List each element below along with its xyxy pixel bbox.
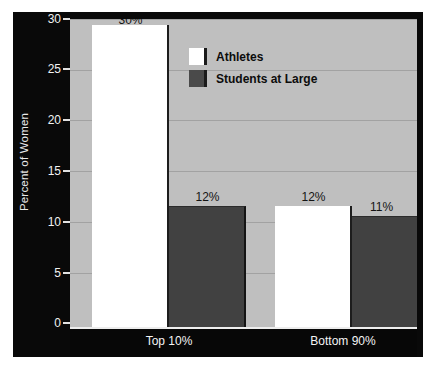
- y-axis-title-text: Percent of Women: [18, 113, 30, 211]
- legend-label-students-at-large: Students at Large: [216, 72, 317, 86]
- legend: Athletes Students at Large: [189, 47, 317, 91]
- y-tick-mark: [63, 322, 70, 324]
- bar-label-students-bottom90: 11%: [348, 200, 415, 214]
- legend-item-athletes[interactable]: Athletes: [189, 47, 317, 66]
- y-tick-mark: [63, 272, 70, 274]
- bar-label-athletes-top10: 30%: [92, 19, 169, 27]
- chart-figure: Percent of Women 30 25 20 15 10 5 0 30% …: [13, 12, 423, 357]
- y-tick-label: 30: [48, 12, 61, 26]
- legend-swatch-students-at-large: [189, 70, 207, 87]
- bar-athletes-bottom90[interactable]: [275, 206, 352, 327]
- x-axis-labels: Top 10% Bottom 90%: [70, 329, 417, 357]
- x-tick-label-top10: Top 10%: [92, 334, 246, 348]
- bar-students-top10[interactable]: [169, 206, 246, 327]
- bar-athletes-top10[interactable]: [92, 25, 169, 327]
- y-tick-mark: [63, 170, 70, 172]
- legend-swatch-athletes: [189, 48, 207, 65]
- y-tick-label: 25: [48, 62, 61, 76]
- y-tick-mark: [63, 18, 70, 20]
- bar-label-athletes-bottom90: 12%: [275, 190, 352, 204]
- x-tick-label-bottom90: Bottom 90%: [266, 334, 420, 348]
- legend-item-students-at-large[interactable]: Students at Large: [189, 69, 317, 88]
- y-tick-label: 15: [48, 164, 61, 178]
- y-tick-mark: [63, 68, 70, 70]
- y-tick-label: 20: [48, 113, 61, 127]
- legend-label-athletes: Athletes: [216, 50, 263, 64]
- y-tick-label: 0: [54, 316, 61, 330]
- y-axis-ticks: 30 25 20 15 10 5 0: [35, 12, 70, 332]
- y-tick-label: 10: [48, 215, 61, 229]
- plot-area: 30% 12% 12% 11% Athletes Students at Lar…: [70, 19, 417, 327]
- bar-label-students-top10: 12%: [169, 190, 246, 204]
- y-tick-mark: [63, 119, 70, 121]
- y-tick-label: 5: [54, 266, 61, 280]
- bar-students-bottom90[interactable]: [352, 216, 417, 327]
- y-tick-mark: [63, 221, 70, 223]
- y-axis-title: Percent of Women: [13, 12, 35, 312]
